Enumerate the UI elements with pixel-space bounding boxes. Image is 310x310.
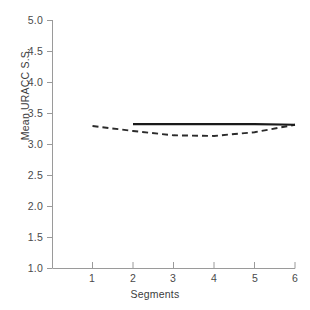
x-tick-label-4: 4 (204, 272, 224, 284)
y-tick-marks (47, 21, 53, 269)
y-tick-label-1.5: 1.5 (17, 231, 43, 243)
x-tick-label-1: 1 (82, 272, 102, 284)
plot-area (0, 0, 310, 310)
chart-figure: 5.0 4.5 4.0 3.5 3.0 2.5 2.0 1.5 1.0 1 2 … (0, 0, 310, 310)
data-line-dashed (93, 125, 296, 136)
y-axis-label: Mean URACC S.S. (19, 14, 31, 174)
y-tick-label-1.0: 1.0 (17, 262, 43, 274)
data-line-solid (133, 124, 295, 125)
x-tick-label-2: 2 (123, 272, 143, 284)
x-tick-label-3: 3 (163, 272, 183, 284)
x-tick-label-6: 6 (285, 272, 305, 284)
x-tick-marks (93, 262, 296, 269)
x-axis-label: Segments (0, 288, 310, 300)
y-tick-label-2.0: 2.0 (17, 200, 43, 212)
x-tick-label-5: 5 (245, 272, 265, 284)
